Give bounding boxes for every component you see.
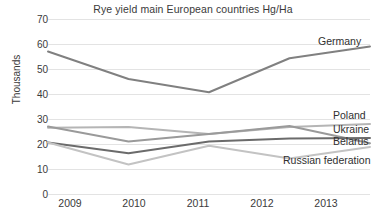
plot-area xyxy=(0,0,386,220)
series-lines xyxy=(48,47,370,165)
series-label-poland: Poland xyxy=(333,110,366,121)
series-label-germany: Germany xyxy=(318,36,361,47)
series-label-belarus: Belarus xyxy=(333,136,369,147)
rye-yield-line-chart: Rye yield main European countries Hg/Ha … xyxy=(0,0,386,220)
series-label-ukraine: Ukraine xyxy=(333,124,369,135)
series-label-russian-federation: Russian federation xyxy=(283,155,371,166)
